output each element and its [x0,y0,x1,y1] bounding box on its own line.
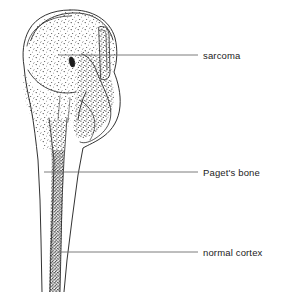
anatomical-figure: sarcoma Paget's bone normal cortex [0,0,290,292]
label-sarcoma: sarcoma [203,50,240,61]
label-pagets-bone: Paget's bone [203,167,260,178]
label-normal-cortex: normal cortex [203,247,263,258]
